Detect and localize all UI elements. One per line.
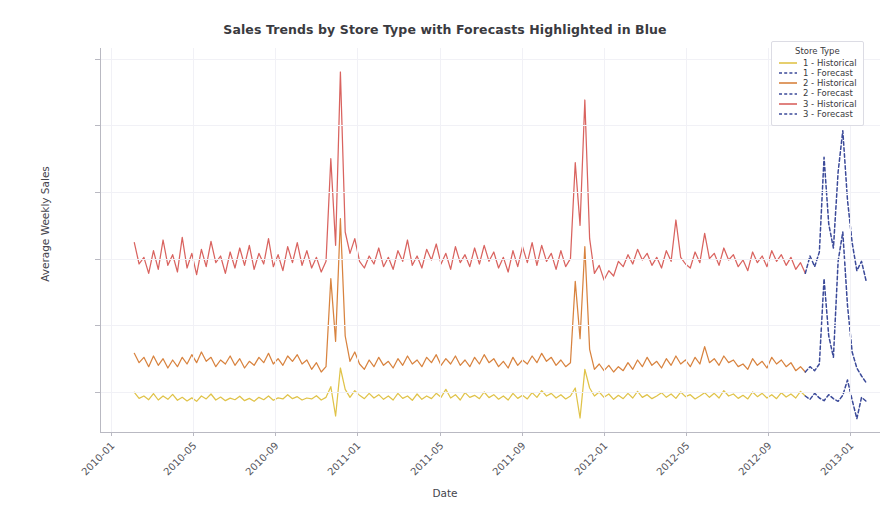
series-line-3-historical [134, 72, 805, 280]
legend-item-label: 3 - Forecast [803, 110, 853, 119]
x-tick-label: 2010-05 [162, 440, 199, 477]
plot-area [100, 48, 880, 432]
legend-item-label: 1 - Forecast [803, 69, 853, 78]
gridline-y [100, 192, 880, 193]
x-tick-label: 2011-01 [326, 440, 363, 477]
legend-item[interactable]: 1 - Forecast [778, 69, 857, 78]
gridline-x [686, 48, 687, 432]
y-axis-spine [100, 48, 101, 432]
gridline-y [100, 259, 880, 260]
legend-item[interactable]: 3 - Forecast [778, 110, 857, 119]
gridline-y [100, 325, 880, 326]
gridline-x [111, 48, 112, 432]
gridline-y [100, 59, 880, 60]
x-tick-mark [686, 432, 687, 436]
gridline-y [100, 392, 880, 393]
y-tick-mark [95, 259, 100, 260]
legend-item-label: 3 - Historical [803, 100, 857, 109]
gridline-y [100, 125, 880, 126]
gridline-x [193, 48, 194, 432]
legend-item[interactable]: 1 - Historical [778, 59, 857, 68]
y-tick-mark [95, 192, 100, 193]
x-tick-label: 2011-05 [408, 440, 445, 477]
dashed-line-icon [778, 110, 798, 118]
y-tick-mark [95, 125, 100, 126]
x-tick-label: 2013-01 [818, 440, 855, 477]
legend-entries: 1 - Historical1 - Forecast2 - Historical… [778, 59, 857, 119]
x-tick-mark [604, 432, 605, 436]
gridline-x [768, 48, 769, 432]
x-tick-mark [440, 432, 441, 436]
legend-title: Store Type [778, 47, 857, 56]
x-tick-mark [522, 432, 523, 436]
x-tick-mark [768, 432, 769, 436]
legend-item[interactable]: 2 - Historical [778, 79, 857, 88]
gridline-x [440, 48, 441, 432]
series-line-2-historical [134, 219, 805, 372]
legend[interactable]: Store Type 1 - Historical1 - Forecast2 -… [771, 41, 864, 126]
x-tick-mark [193, 432, 194, 436]
solid-line-icon [778, 100, 798, 108]
gridline-x [604, 48, 605, 432]
x-tick-label: 2010-09 [244, 440, 281, 477]
x-axis-spine [100, 432, 880, 433]
legend-item[interactable]: 2 - Forecast [778, 89, 857, 98]
series-line-1-forecast [805, 380, 866, 419]
x-tick-label: 2010-01 [80, 440, 117, 477]
legend-item[interactable]: 3 - Historical [778, 100, 857, 109]
y-tick-mark [95, 392, 100, 393]
series-line-2-forecast [805, 232, 866, 383]
x-tick-label: 2012-09 [736, 440, 773, 477]
dashed-line-icon [778, 69, 798, 77]
x-tick-label: 2012-01 [572, 440, 609, 477]
dashed-line-icon [778, 90, 798, 98]
gridline-x [357, 48, 358, 432]
y-tick-mark [95, 59, 100, 60]
legend-item-label: 1 - Historical [803, 59, 857, 68]
gridline-x [275, 48, 276, 432]
series-plot [100, 48, 880, 432]
x-tick-label: 2012-05 [654, 440, 691, 477]
x-tick-label: 2011-09 [490, 440, 527, 477]
x-tick-mark [111, 432, 112, 436]
y-tick-mark [95, 325, 100, 326]
gridline-x [522, 48, 523, 432]
solid-line-icon [778, 79, 798, 87]
x-tick-mark [357, 432, 358, 436]
chart-title: Sales Trends by Store Type with Forecast… [0, 22, 890, 37]
solid-line-icon [778, 59, 798, 67]
x-tick-mark [850, 432, 851, 436]
x-axis-label: Date [0, 487, 890, 499]
legend-item-label: 2 - Historical [803, 79, 857, 88]
chart-figure: Sales Trends by Store Type with Forecast… [0, 0, 890, 509]
x-tick-mark [275, 432, 276, 436]
legend-item-label: 2 - Forecast [803, 89, 853, 98]
y-axis-label: Average Weekly Sales [39, 74, 51, 374]
series-line-1-historical [134, 368, 805, 418]
